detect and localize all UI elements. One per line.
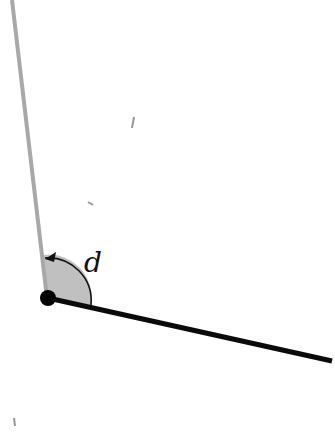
stray-mark (14, 418, 15, 426)
angle-diagram: d (0, 0, 335, 434)
angle-label: d (84, 246, 102, 279)
stray-mark (132, 117, 134, 128)
stray-mark (88, 202, 93, 205)
ray-black (48, 298, 332, 361)
ray-gray (12, 0, 47, 298)
vertex-point (40, 290, 56, 306)
